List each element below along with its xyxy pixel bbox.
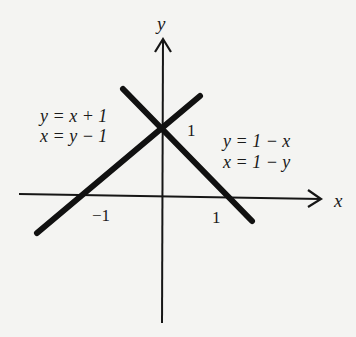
left-equation-2: x = y − 1: [40, 127, 107, 145]
left-equation-1: y = x + 1: [40, 107, 107, 125]
right-equation-2: x = 1 − y: [223, 153, 290, 171]
right-equation-1: y = 1 − x: [223, 132, 290, 150]
x-axis-label: x: [334, 191, 342, 210]
x-axis: [19, 194, 321, 199]
y-tick-1: 1: [187, 122, 196, 139]
x-tick-neg-1: −1: [92, 207, 110, 224]
y-axis: [162, 39, 163, 323]
coordinate-plane: [0, 0, 356, 337]
x-tick-1: 1: [212, 209, 221, 226]
y-axis-label: y: [157, 14, 165, 33]
